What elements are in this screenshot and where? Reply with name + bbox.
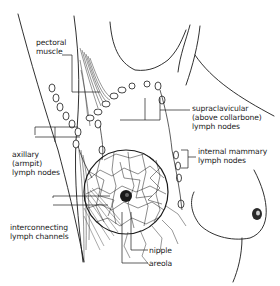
label-nipple: nipple: [149, 246, 172, 255]
label-areola: areola: [149, 259, 172, 268]
lymph-channel-hatching: [84, 188, 122, 250]
breast-lymph-diagram: pectoral muscle supraclavicular (above c…: [0, 0, 280, 286]
right-nipple: [252, 208, 262, 220]
label-internal-mammary-lymph-nodes: internal mammary lymph nodes: [198, 147, 267, 165]
label-supraclavicular-lymph-nodes: supraclavicular (above collarbone) lymph…: [192, 104, 262, 131]
label-interconnecting-lymph-channels: interconnecting lymph channels: [10, 223, 69, 241]
label-axillary-lymph-nodes: axillary (armpit) lymph nodes: [12, 150, 60, 177]
lymph-node-chains: [49, 81, 184, 208]
label-pectoral-muscle: pectoral muscle: [36, 38, 66, 56]
